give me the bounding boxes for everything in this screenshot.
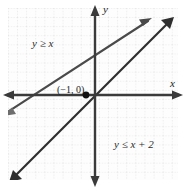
coordinate-plane-svg: y x y ≥ x y ≤ x + 2 (−1, 0) [0, 0, 187, 192]
upper-region-label: y ≥ x [31, 37, 53, 49]
x-axis-label: x [169, 77, 175, 89]
inequality-graph-figure: y x y ≥ x y ≤ x + 2 (−1, 0) [0, 0, 187, 192]
lower-region-label: y ≤ x + 2 [113, 138, 154, 150]
plotted-point [83, 92, 90, 99]
point-label: (−1, 0) [57, 84, 84, 96]
y-axis-label: y [102, 3, 108, 15]
